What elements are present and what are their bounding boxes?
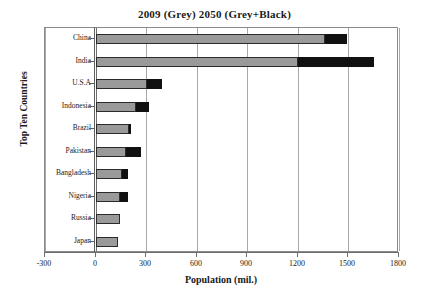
category-tick <box>89 128 94 129</box>
bar-segment-black <box>136 102 149 112</box>
bar-segment-grey <box>96 124 129 134</box>
category-label-bangladesh: Bangladesh <box>3 168 91 177</box>
bar-segment-grey <box>96 214 120 224</box>
chart-title: 2009 (Grey) 2050 (Grey+Black) <box>0 8 429 20</box>
bar-segment-black <box>325 34 347 44</box>
x-tick-label: 1200 <box>277 259 317 268</box>
x-tick-label: 1500 <box>327 259 367 268</box>
bar-segment-black <box>129 124 131 134</box>
x-tick-label: 900 <box>226 259 266 268</box>
x-tick-label: 300 <box>125 259 165 268</box>
bar-segment-black <box>122 169 128 179</box>
bar-segment-grey <box>96 79 147 89</box>
x-tick-300 <box>145 252 146 257</box>
bar-row <box>96 57 374 67</box>
bar-row <box>96 34 347 44</box>
x-tick-900 <box>246 252 247 257</box>
y-axis-title: Top Ten Countries <box>19 39 29 179</box>
category-tick <box>89 38 94 39</box>
category-label-brazil: Brazil <box>3 123 91 132</box>
x-tick-1800 <box>398 252 399 257</box>
bars-layer <box>45 28 397 251</box>
bar-row <box>96 169 128 179</box>
category-label-pakistan: Pakistan <box>3 146 91 155</box>
bar-row <box>96 147 141 157</box>
bar-row <box>96 124 131 134</box>
bar-row <box>96 79 162 89</box>
category-axis-labels: ChinaIndiaU.S.AIndonesiaBrazilPakistanBa… <box>0 27 91 252</box>
category-tick <box>89 61 94 62</box>
bar-segment-grey <box>96 192 120 202</box>
gridline-1800 <box>399 28 400 251</box>
bar-row <box>96 214 120 224</box>
bar-segment-grey <box>96 147 126 157</box>
population-bar-chart: 2009 (Grey) 2050 (Grey+Black) ChinaIndia… <box>0 0 429 300</box>
x-tick-label: 1800 <box>378 259 418 268</box>
bar-segment-black <box>147 79 161 89</box>
bar-segment-black <box>298 57 374 67</box>
bar-row <box>96 102 149 112</box>
x-axis-line <box>44 252 398 253</box>
category-label-nigeria: Nigeria <box>3 191 91 200</box>
category-label-indonesia: Indonesia <box>3 101 91 110</box>
category-label-india: India <box>3 56 91 65</box>
category-tick <box>89 106 94 107</box>
bar-segment-grey <box>96 57 298 67</box>
category-tick <box>89 83 94 84</box>
plot-area <box>44 27 398 252</box>
category-label-japan: Japan <box>3 236 91 245</box>
category-axis-line <box>94 27 95 252</box>
x-axis-title: Population (mil.) <box>44 274 398 285</box>
bar-row <box>96 192 128 202</box>
category-label-china: China <box>3 33 91 42</box>
x-tick--300 <box>44 252 45 257</box>
bar-segment-grey <box>96 169 122 179</box>
category-tick <box>89 196 94 197</box>
bar-segment-grey <box>96 34 325 44</box>
x-tick-label: 600 <box>176 259 216 268</box>
bar-segment-black <box>126 147 141 157</box>
category-label-russia: Russia <box>3 213 91 222</box>
x-tick-600 <box>196 252 197 257</box>
bar-segment-grey <box>96 237 118 247</box>
bar-row <box>96 237 118 247</box>
bar-segment-black <box>120 192 128 202</box>
x-tick-label: 0 <box>75 259 115 268</box>
bar-segment-grey <box>96 102 136 112</box>
category-tick <box>89 173 94 174</box>
category-tick <box>89 241 94 242</box>
x-tick-label: -300 <box>24 259 64 268</box>
x-tick-1200 <box>297 252 298 257</box>
x-tick-1500 <box>347 252 348 257</box>
x-tick-0 <box>95 252 96 257</box>
category-label-u-s-a: U.S.A <box>3 78 91 87</box>
category-tick <box>89 151 94 152</box>
category-tick <box>89 218 94 219</box>
